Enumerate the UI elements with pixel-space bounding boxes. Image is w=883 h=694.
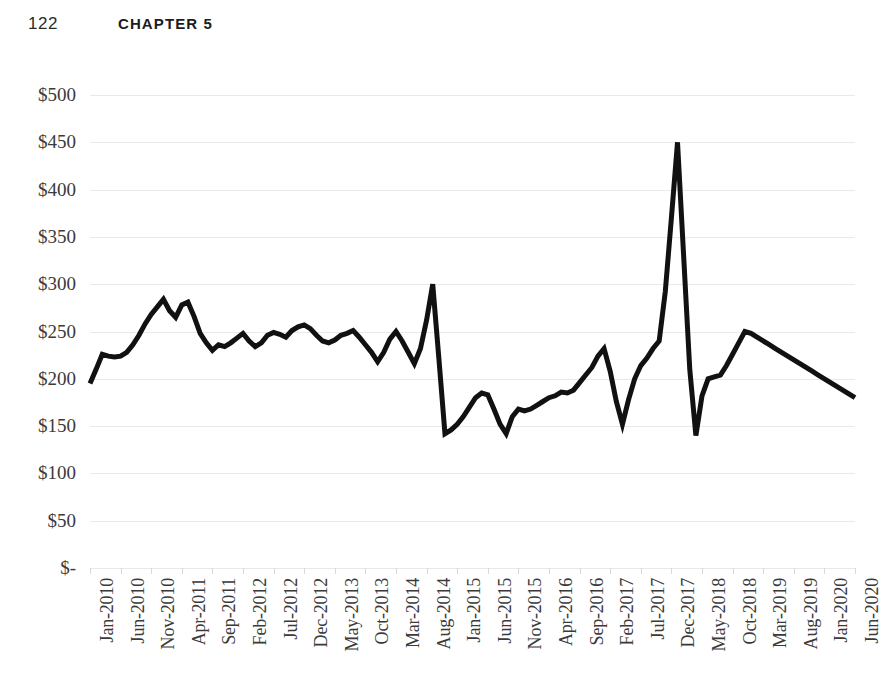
x-axis-tick-label: Aug-2019 bbox=[801, 578, 822, 649]
x-axis-tick-label: May-2018 bbox=[709, 578, 730, 651]
x-axis-tick-label: Jun-2020 bbox=[862, 578, 883, 643]
page-number: 122 bbox=[28, 14, 58, 34]
x-axis-tick-label: Jun-2015 bbox=[495, 578, 516, 643]
x-axis-tick-label: Apr-2016 bbox=[556, 578, 577, 646]
series-line bbox=[90, 95, 855, 568]
x-axis-tick-label: May-2013 bbox=[342, 578, 363, 651]
series-polyline bbox=[90, 142, 855, 435]
x-axis-tick-mark bbox=[365, 568, 366, 574]
x-axis-tick-mark bbox=[518, 568, 519, 574]
line-chart-figure: $500$450$400$350$300$250$200$150$100$50$… bbox=[0, 60, 863, 694]
x-axis-tick-mark bbox=[274, 568, 275, 574]
x-axis-tick-label: Jan-2010 bbox=[97, 578, 118, 642]
y-axis-tick-label: $- bbox=[0, 557, 76, 579]
x-axis-tick-label: Jan-2020 bbox=[831, 578, 852, 642]
x-axis-tick-mark bbox=[824, 568, 825, 574]
x-axis-tick-mark bbox=[182, 568, 183, 574]
x-axis-tick-label: Oct-2018 bbox=[740, 578, 761, 644]
y-axis-tick-label: $400 bbox=[0, 179, 76, 201]
x-axis-tick-label: Sep-2011 bbox=[219, 578, 240, 645]
x-axis-tick-label: Jul-2017 bbox=[648, 578, 669, 639]
x-axis-tick-mark bbox=[90, 568, 91, 574]
x-axis-tick-label: Apr-2011 bbox=[189, 578, 210, 645]
page-header: 122 CHAPTER 5 bbox=[0, 14, 863, 48]
x-axis-tick-mark bbox=[580, 568, 581, 574]
x-axis-tick-label: Dec-2017 bbox=[678, 578, 699, 647]
y-axis-tick-label: $50 bbox=[0, 510, 76, 532]
y-axis-tick-label: $300 bbox=[0, 273, 76, 295]
x-axis-tick-label: Feb-2012 bbox=[250, 578, 271, 645]
y-axis-tick-label: $500 bbox=[0, 84, 76, 106]
x-axis-tick-mark bbox=[641, 568, 642, 574]
x-axis-tick-label: Sep-2016 bbox=[587, 578, 608, 645]
x-axis-tick-mark bbox=[488, 568, 489, 574]
y-axis-tick-label: $100 bbox=[0, 462, 76, 484]
x-axis-tick-label: Nov-2010 bbox=[158, 578, 179, 649]
x-axis-tick-label: Mar-2014 bbox=[403, 578, 424, 648]
x-axis-tick-mark bbox=[702, 568, 703, 574]
x-axis-tick-mark bbox=[457, 568, 458, 574]
x-axis-tick-mark bbox=[427, 568, 428, 574]
x-axis-tick-mark bbox=[733, 568, 734, 574]
x-axis-tick-mark bbox=[855, 568, 856, 574]
y-axis-tick-label: $350 bbox=[0, 226, 76, 248]
x-axis-tick-label: Jun-2010 bbox=[128, 578, 149, 643]
x-axis-tick-mark bbox=[335, 568, 336, 574]
x-axis-tick-mark bbox=[243, 568, 244, 574]
x-axis-tick-label: Dec-2012 bbox=[311, 578, 332, 647]
x-axis-tick-label: Jan-2015 bbox=[464, 578, 485, 642]
running-head-chapter: CHAPTER 5 bbox=[118, 15, 213, 32]
x-axis: Jan-2010Jun-2010Nov-2010Apr-2011Sep-2011… bbox=[90, 568, 855, 694]
x-axis-tick-mark bbox=[794, 568, 795, 574]
x-axis-tick-mark bbox=[610, 568, 611, 574]
x-axis-tick-label: Oct-2013 bbox=[372, 578, 393, 644]
y-axis-tick-label: $250 bbox=[0, 321, 76, 343]
y-axis-tick-label: $200 bbox=[0, 368, 76, 390]
y-axis-tick-label: $150 bbox=[0, 415, 76, 437]
x-axis-tick-mark bbox=[396, 568, 397, 574]
x-axis-tick-label: Feb-2017 bbox=[617, 578, 638, 645]
x-axis-tick-mark bbox=[549, 568, 550, 574]
x-axis-tick-label: Mar-2019 bbox=[770, 578, 791, 648]
x-axis-tick-mark bbox=[304, 568, 305, 574]
x-axis-tick-mark bbox=[671, 568, 672, 574]
x-axis-tick-label: Aug-2014 bbox=[434, 578, 455, 649]
x-axis-tick-label: Jul-2012 bbox=[281, 578, 302, 639]
x-axis-tick-mark bbox=[763, 568, 764, 574]
x-axis-tick-mark bbox=[121, 568, 122, 574]
x-axis-tick-mark bbox=[151, 568, 152, 574]
y-axis: $500$450$400$350$300$250$200$150$100$50$… bbox=[0, 95, 76, 568]
x-axis-tick-mark bbox=[212, 568, 213, 574]
plot-area bbox=[90, 95, 855, 568]
y-axis-tick-label: $450 bbox=[0, 131, 76, 153]
x-axis-tick-label: Nov-2015 bbox=[525, 578, 546, 649]
